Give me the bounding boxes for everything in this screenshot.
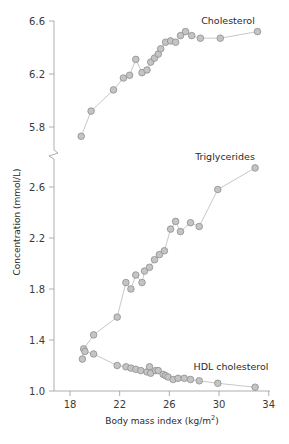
- x-tick-label: 18: [64, 399, 77, 410]
- data-point: [123, 279, 130, 286]
- data-point: [126, 72, 133, 79]
- data-point: [114, 362, 121, 369]
- data-point: [90, 351, 97, 358]
- x-tick-label: 30: [213, 399, 226, 410]
- data-point: [88, 108, 95, 115]
- series-line: [82, 168, 255, 359]
- data-point: [90, 332, 97, 339]
- data-point: [196, 378, 203, 385]
- data-point: [182, 28, 189, 35]
- data-point: [114, 314, 121, 321]
- series-triglycerides: [79, 165, 258, 363]
- x-tick-label: 22: [113, 399, 126, 410]
- label-cholesterol: Cholesterol: [201, 15, 255, 26]
- x-axis-title: Body mass index (kg/m2): [105, 414, 218, 426]
- data-point: [157, 46, 164, 53]
- x-axis: 1822263034: [54, 391, 275, 410]
- data-point: [110, 87, 117, 94]
- y-tick-label: 5.8: [29, 122, 45, 133]
- data-point: [144, 67, 151, 74]
- data-point: [151, 256, 158, 263]
- y-tick-label: 6.2: [29, 69, 45, 80]
- bmi-lipid-chart: 5.86.26.6 1.01.41.82.22.6 1822263034 Con…: [0, 0, 289, 444]
- data-point: [138, 367, 145, 374]
- data-point: [128, 286, 135, 293]
- data-point: [146, 264, 153, 271]
- y-axis-upper-line: [49, 21, 58, 391]
- data-point: [175, 375, 182, 382]
- data-point: [139, 279, 146, 286]
- data-point: [215, 186, 222, 193]
- data-point: [254, 28, 261, 35]
- y-tick-label: 1.8: [29, 284, 45, 295]
- series-line: [81, 32, 257, 137]
- data-point: [252, 384, 259, 391]
- data-point: [252, 165, 259, 172]
- data-point: [217, 35, 224, 42]
- data-point: [167, 226, 174, 233]
- y-tick-label: 1.4: [29, 335, 45, 346]
- data-point: [172, 218, 179, 225]
- y-axis-upper-ticks: 5.86.26.6: [29, 16, 54, 133]
- x-axis-ticks: 1822263034: [64, 391, 275, 410]
- x-tick-label: 26: [163, 399, 176, 410]
- data-point: [177, 228, 184, 235]
- y-axis: 5.86.26.6 1.01.41.82.22.6: [29, 16, 58, 397]
- data-point: [197, 35, 204, 42]
- data-point: [187, 376, 194, 383]
- data-point: [196, 223, 203, 230]
- series-cholesterol: [78, 28, 261, 139]
- data-point: [188, 32, 195, 39]
- data-point: [133, 272, 140, 279]
- label-hdl-cholesterol: HDL cholesterol: [194, 361, 269, 372]
- data-point: [82, 348, 89, 355]
- y-tick-label: 1.0: [29, 386, 45, 397]
- data-point: [187, 219, 194, 226]
- data-point: [78, 133, 85, 140]
- y-axis-lower-ticks: 1.01.41.82.22.6: [29, 182, 54, 397]
- data-point: [161, 248, 168, 255]
- y-axis-title: Concentration (mmol/L): [12, 168, 22, 275]
- data-point: [181, 375, 188, 382]
- data-point: [172, 39, 179, 46]
- data-point: [133, 56, 140, 63]
- series-layer: [78, 28, 261, 390]
- data-point: [120, 75, 127, 82]
- label-triglycerides: Triglycerides: [194, 151, 255, 162]
- y-tick-label: 2.6: [29, 182, 45, 193]
- data-point: [79, 356, 86, 363]
- data-point: [146, 364, 153, 371]
- data-point: [215, 380, 222, 387]
- y-tick-label: 6.6: [29, 16, 45, 27]
- x-tick-label: 34: [262, 399, 275, 410]
- y-tick-label: 2.2: [29, 233, 45, 244]
